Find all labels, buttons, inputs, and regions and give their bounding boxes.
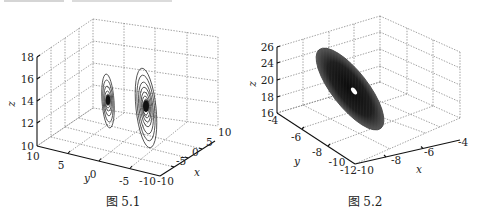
y-axis-label-5-2: y [293, 155, 301, 167]
svg-text:-10: -10 [357, 164, 374, 176]
y-axis-label-5-1: y [83, 172, 91, 184]
svg-text:0: 0 [192, 146, 199, 158]
svg-text:16: 16 [21, 73, 35, 85]
svg-text:-10: -10 [157, 175, 174, 187]
svg-text:-5: -5 [176, 155, 186, 167]
svg-text:-12: -12 [340, 164, 357, 176]
chart-5-1: 18 16 14 12 10 z 10 5 0 -5 -10 y -10 -5 … [5, 19, 231, 209]
svg-text:-10: -10 [139, 175, 156, 187]
svg-text:-8: -8 [312, 146, 322, 158]
z-ticks-5-1: 18 16 14 12 10 [21, 51, 35, 152]
contour-rings-2 [132, 67, 160, 149]
svg-text:-4: -4 [268, 114, 279, 126]
axes-5-1 [37, 55, 215, 176]
z-axis-label-5-2: z [246, 81, 258, 88]
svg-text:-8: -8 [391, 154, 401, 166]
grid-5-1 [37, 19, 218, 168]
figure-caption-5-1: 图 5.1 [106, 195, 141, 209]
svg-text:12: 12 [21, 117, 34, 129]
y-ticks-5-1: 10 5 0 -5 -10 [26, 150, 156, 187]
svg-text:0: 0 [90, 168, 97, 180]
svg-text:10: 10 [26, 150, 39, 162]
svg-text:24: 24 [261, 57, 275, 69]
x-axis-label-5-1: x [194, 166, 200, 178]
svg-text:20: 20 [261, 74, 274, 86]
contour-rings-1 [100, 74, 116, 129]
svg-text:5: 5 [206, 136, 213, 148]
svg-text:-6: -6 [291, 131, 302, 143]
torus-trajectory [305, 39, 395, 140]
svg-text:-6: -6 [424, 146, 435, 158]
svg-text:10: 10 [218, 126, 231, 138]
svg-text:26: 26 [261, 41, 275, 53]
svg-text:5: 5 [58, 159, 65, 171]
x-axis-label-5-2: x [416, 163, 422, 175]
svg-text:18: 18 [21, 51, 34, 63]
svg-text:18: 18 [261, 91, 274, 103]
y-ticks-5-2: -4 -6 -8 -10 -12 [268, 114, 357, 176]
svg-text:14: 14 [21, 95, 35, 107]
z-ticks-5-2: 26 24 20 18 16 [261, 41, 275, 119]
z-axis-label-5-1: z [5, 101, 17, 108]
chart-5-2: 26 24 20 18 16 z -4 -6 -8 -10 -12 y -10 … [246, 16, 469, 209]
svg-text:-4: -4 [458, 136, 469, 148]
figure-canvas: 18 16 14 12 10 z 10 5 0 -5 -10 y -10 -5 … [0, 0, 483, 217]
top-cut-text [4, 0, 172, 2]
figure-caption-5-2: 图 5.2 [348, 195, 383, 209]
svg-text:-5: -5 [119, 175, 129, 187]
